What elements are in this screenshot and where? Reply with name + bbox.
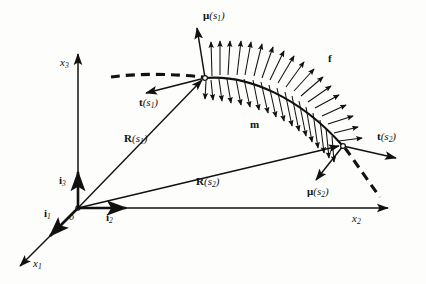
moment-fan-near-s1 <box>205 81 206 99</box>
R-s1-label: R(s1) <box>124 133 147 146</box>
position-vectors <box>78 80 339 208</box>
mu-s1-vector <box>197 28 205 78</box>
director-vectors <box>197 28 343 180</box>
mu-s1-label: μ(s1) <box>203 10 225 23</box>
t-s2-vector <box>343 146 396 158</box>
i3-basis-label: i3 <box>59 175 66 188</box>
node-s2-marker <box>341 144 346 149</box>
distributed-force-label: f <box>328 53 332 64</box>
x3-axis-label: x3 <box>60 57 69 70</box>
t-s1-label: t(s1) <box>139 97 158 110</box>
distributed-moment-label: m <box>250 119 259 130</box>
i1-basis-label: i1 <box>44 208 51 221</box>
figure-canvas: x3 x2 x1 i3 i2 i1 o R(s1) R(s2) t(s1) t(… <box>0 0 426 284</box>
t-s2-label: t(s2) <box>377 131 396 144</box>
mu-s2-label: μ(s2) <box>307 186 329 199</box>
distributed-force-fan <box>211 41 362 141</box>
x2-axis-label: x2 <box>352 213 361 226</box>
dashed-curve-right <box>345 148 380 197</box>
x1-axis-label: x1 <box>33 258 42 271</box>
R-s2-label: R(s2) <box>196 176 219 189</box>
origin-label: o <box>69 212 74 222</box>
dashed-continuations <box>111 74 380 197</box>
node-s1-marker <box>203 76 208 81</box>
dashed-curve-left <box>111 74 203 77</box>
i2-basis-label: i2 <box>106 212 113 225</box>
diagram-svg <box>0 0 426 284</box>
